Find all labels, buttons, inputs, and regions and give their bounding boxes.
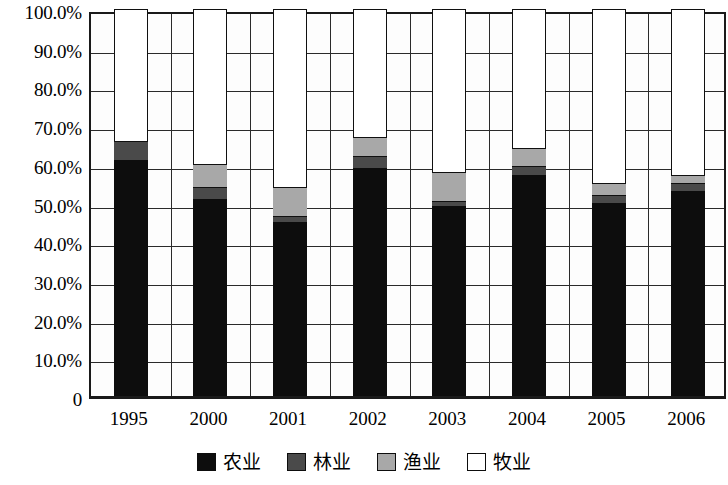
bar-segment[interactable]: [592, 195, 626, 203]
x-tick-label: 2005: [588, 408, 626, 430]
y-tick-label: 80.0%: [34, 80, 82, 99]
bar-segment[interactable]: [671, 9, 705, 175]
legend-item[interactable]: 牧业: [467, 452, 531, 472]
x-tick-label: 2000: [189, 408, 227, 430]
bar-segment[interactable]: [353, 168, 387, 396]
legend-label: 牧业: [493, 452, 531, 472]
y-tick-label: 0: [73, 390, 82, 409]
stacked-bar[interactable]: [592, 9, 626, 396]
bar-column: [250, 14, 330, 396]
legend-swatch-icon: [377, 453, 396, 471]
x-tick-label: 2002: [349, 408, 387, 430]
bar-segment[interactable]: [193, 9, 227, 164]
legend-label: 林业: [313, 452, 351, 472]
bar-segment[interactable]: [353, 9, 387, 137]
y-tick-label: 50.0%: [34, 196, 82, 215]
stacked-bar-chart: 010.0%20.0%30.0%40.0%50.0%60.0%70.0%80.0…: [0, 0, 728, 485]
bar-column: [489, 14, 569, 396]
bar-segment[interactable]: [114, 141, 148, 160]
legend-label: 渔业: [403, 452, 441, 472]
bar-segment[interactable]: [114, 160, 148, 396]
stacked-bar[interactable]: [512, 9, 546, 396]
x-axis: 19952000200120022003200420052006: [89, 404, 726, 438]
y-tick-label: 10.0%: [34, 351, 82, 370]
legend-swatch-icon: [467, 453, 486, 471]
stacked-bar[interactable]: [193, 9, 227, 396]
bar-segment[interactable]: [193, 199, 227, 396]
bar-segment[interactable]: [273, 9, 307, 187]
legend-item[interactable]: 林业: [287, 452, 351, 472]
bar-segment[interactable]: [512, 148, 546, 165]
y-tick-label: 20.0%: [34, 312, 82, 331]
bar-segment[interactable]: [193, 187, 227, 199]
y-tick-label: 40.0%: [34, 235, 82, 254]
bar-segment[interactable]: [512, 9, 546, 148]
legend-item[interactable]: 渔业: [377, 452, 441, 472]
bar-segment[interactable]: [432, 172, 466, 201]
bar-column: [171, 14, 251, 396]
x-tick-label: 2006: [667, 408, 705, 430]
bar-segment[interactable]: [512, 166, 546, 176]
bar-segment[interactable]: [273, 187, 307, 216]
bar-column: [330, 14, 410, 396]
x-tick-label: 2004: [508, 408, 546, 430]
stacked-bar[interactable]: [353, 9, 387, 396]
stacked-bar[interactable]: [273, 9, 307, 396]
bar-segment[interactable]: [353, 137, 387, 156]
legend-label: 农业: [223, 452, 261, 472]
stacked-bar[interactable]: [114, 9, 148, 396]
bar-segment[interactable]: [671, 183, 705, 191]
legend-swatch-icon: [287, 453, 306, 471]
bar-segment[interactable]: [353, 156, 387, 168]
stacked-bar[interactable]: [432, 9, 466, 396]
x-tick-label: 2001: [269, 408, 307, 430]
y-tick-label: 90.0%: [34, 41, 82, 60]
y-tick-label: 60.0%: [34, 157, 82, 176]
bar-segment[interactable]: [512, 175, 546, 396]
bar-segment[interactable]: [114, 9, 148, 141]
bar-segment[interactable]: [193, 164, 227, 187]
bar-segment[interactable]: [592, 183, 626, 195]
x-tick-label: 1995: [110, 408, 148, 430]
legend-item[interactable]: 农业: [197, 452, 261, 472]
bar-segment[interactable]: [432, 206, 466, 396]
bar-column: [648, 14, 728, 396]
bar-segment[interactable]: [671, 191, 705, 396]
stacked-bar[interactable]: [671, 9, 705, 396]
plot-area: [89, 12, 726, 399]
bar-column: [91, 14, 171, 396]
chart-legend: 农业林业渔业牧业: [0, 452, 728, 472]
bar-segment[interactable]: [671, 175, 705, 183]
y-tick-label: 70.0%: [34, 119, 82, 138]
bar-segment[interactable]: [432, 9, 466, 172]
y-tick-label: 30.0%: [34, 273, 82, 292]
bar-segment[interactable]: [592, 203, 626, 397]
bar-segment[interactable]: [592, 9, 626, 183]
bars-layer: [91, 14, 724, 396]
legend-swatch-icon: [197, 453, 216, 471]
x-tick-label: 2003: [428, 408, 466, 430]
y-tick-label: 100.0%: [25, 3, 82, 22]
bar-column: [410, 14, 490, 396]
y-axis: 010.0%20.0%30.0%40.0%50.0%60.0%70.0%80.0…: [0, 0, 86, 410]
bar-column: [569, 14, 649, 396]
bar-segment[interactable]: [273, 222, 307, 396]
